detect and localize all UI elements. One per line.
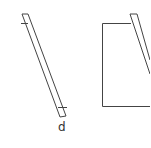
left-figure (21, 14, 67, 117)
right-figure (103, 14, 151, 107)
diagram-canvas (0, 0, 150, 148)
slanted-bar (22, 14, 66, 117)
slanted-bar-right (130, 14, 150, 74)
dimension-label-d: d (58, 121, 66, 133)
